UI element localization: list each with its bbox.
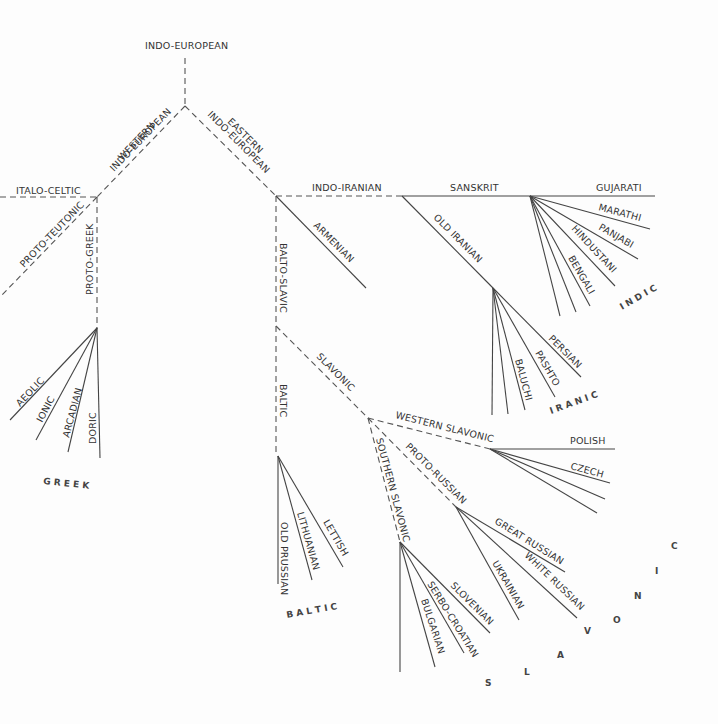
group-label-slavonic-a: A bbox=[557, 650, 564, 660]
proto-teutonic-branch bbox=[2, 197, 97, 295]
panjabi-line bbox=[530, 196, 638, 259]
old-iranian-line bbox=[402, 196, 493, 288]
label-eastern-2: INDO-EUROPEAN bbox=[206, 109, 273, 176]
group-labels: G R E E K I N D I C I R A N I C B A L T … bbox=[43, 282, 678, 688]
group-label-slavonic-v: V bbox=[584, 626, 591, 636]
label-proto-russian: PROTO-RUSSIAN bbox=[404, 441, 469, 506]
group-label-slavonic-o: O bbox=[613, 615, 621, 625]
label-gujarati: GUJARATI bbox=[596, 182, 642, 193]
label-baltic: BALTIC bbox=[278, 384, 289, 418]
label-sanskrit: SANSKRIT bbox=[450, 182, 499, 193]
group-label-slavonic-c: C bbox=[671, 541, 678, 551]
group-label-slavonic-s: S bbox=[485, 678, 491, 688]
label-western-2: INDO-EUROPEAN bbox=[108, 106, 174, 174]
label-armenian: ARMENIAN bbox=[312, 220, 357, 265]
group-label-indic: I N D I C bbox=[618, 282, 659, 311]
iranic-line-4 bbox=[493, 288, 508, 414]
label-old-iranian: OLD IRANIAN bbox=[432, 212, 485, 265]
label-indo-iranian: INDO-IRANIAN bbox=[312, 182, 382, 193]
great-russian-line bbox=[456, 507, 565, 572]
label-slavonic: SLAVONIC bbox=[315, 351, 358, 394]
solid-branches bbox=[10, 196, 655, 672]
western-branch bbox=[97, 106, 185, 197]
label-balto-slavic: BALTO-SLAVIC bbox=[278, 243, 289, 313]
tree-canvas: INDO-EUROPEAN WESTERN INDO-EUROPEAN EAST… bbox=[0, 0, 718, 724]
label-doric: DORIC bbox=[87, 412, 98, 444]
group-label-baltic: B A L T I C bbox=[286, 601, 339, 620]
indic-line-6 bbox=[530, 196, 576, 312]
label-lithuanian: LITHUANIAN bbox=[295, 511, 322, 572]
label-proto-teutonic: PROTO-TEUTONIC bbox=[18, 199, 87, 270]
label-italo-celtic: ITALO-CELTIC bbox=[16, 185, 81, 196]
baluchi-line bbox=[493, 288, 525, 410]
label-old-prussian: OLD PRUSSIAN bbox=[279, 522, 290, 595]
label-proto-greek: PROTO-GREEK bbox=[84, 223, 95, 295]
bengali-line bbox=[530, 196, 590, 306]
group-label-greek: G R E E K bbox=[43, 476, 91, 491]
persian-line bbox=[493, 288, 581, 377]
indic-line-7 bbox=[530, 196, 560, 316]
language-tree-diagram: INDO-EUROPEAN WESTERN INDO-EUROPEAN EAST… bbox=[0, 0, 718, 724]
group-label-iranic: I R A N I C bbox=[548, 389, 599, 416]
western-slavonic-line-4 bbox=[490, 449, 597, 513]
label-arcadian: ARCADIAN bbox=[60, 386, 84, 438]
group-label-slavonic-l: L bbox=[524, 667, 530, 677]
group-label-slavonic-i: I bbox=[655, 566, 658, 576]
label-western-slavonic: WESTERN SLAVONIC bbox=[395, 409, 496, 444]
iranic-line-5 bbox=[492, 288, 493, 415]
label-marathi: MARATHI bbox=[597, 201, 642, 223]
group-label-slavonic-n: N bbox=[634, 591, 642, 601]
label-southern-slavonic: SOUTHERN SLAVONIC bbox=[374, 437, 412, 544]
label-panjabi: PANJABI bbox=[597, 221, 636, 250]
label-indo-european: INDO-EUROPEAN bbox=[145, 40, 228, 51]
node-labels: INDO-EUROPEAN WESTERN INDO-EUROPEAN EAST… bbox=[14, 40, 643, 659]
label-polish: POLISH bbox=[570, 435, 606, 446]
label-baluchi: BALUCHI bbox=[513, 358, 535, 402]
